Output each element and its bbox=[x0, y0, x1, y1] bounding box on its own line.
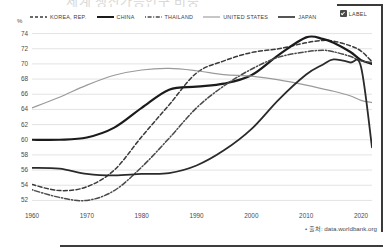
label-toggle[interactable]: LABEL bbox=[340, 10, 367, 17]
frame-right-edge bbox=[381, 4, 383, 232]
chart-legend: KOREA, REP. CHINA THAILAND UNITED STATES… bbox=[30, 10, 379, 24]
checkbox-checked-icon[interactable] bbox=[340, 10, 347, 17]
y-tick-label: 56 bbox=[14, 166, 28, 173]
legend-item-korea[interactable]: KOREA, REP. bbox=[30, 14, 87, 20]
y-tick-label: 62 bbox=[14, 121, 28, 128]
legend-label-united-states: UNITED STATES bbox=[223, 14, 268, 20]
x-tick-label: 2000 bbox=[237, 212, 265, 219]
series-line-japan bbox=[32, 59, 372, 175]
y-tick-label: 72 bbox=[14, 45, 28, 52]
x-tick-label: 1980 bbox=[128, 212, 156, 219]
legend-swatch-solid-medium-icon bbox=[278, 14, 295, 20]
legend-item-japan[interactable]: JAPAN bbox=[278, 14, 316, 20]
legend-item-thailand[interactable]: THAILAND bbox=[145, 14, 194, 20]
frame-top-edge bbox=[337, 4, 383, 6]
x-tick-label: 1990 bbox=[183, 212, 211, 219]
source-note: • 출처: data.worldbank.org bbox=[305, 224, 377, 233]
y-tick-label: 54 bbox=[14, 181, 28, 188]
x-tick-label: 1970 bbox=[73, 212, 101, 219]
y-tick-label: 58 bbox=[14, 151, 28, 158]
series-line-korea-rep bbox=[32, 40, 372, 190]
legend-swatch-dashed-icon bbox=[30, 14, 47, 20]
legend-label-thailand: THAILAND bbox=[165, 14, 194, 20]
frame-bottom-edge bbox=[60, 245, 383, 247]
plot-area bbox=[32, 26, 372, 208]
series-line-thailand bbox=[32, 50, 372, 200]
y-tick-label: 64 bbox=[14, 105, 28, 112]
legend-swatch-solid-thin-icon bbox=[203, 14, 220, 20]
plot-svg bbox=[32, 26, 372, 208]
legend-swatch-solid-thick-icon bbox=[97, 14, 114, 20]
x-tick-label: 2020 bbox=[347, 212, 375, 219]
legend-swatch-dash-dot-icon bbox=[145, 14, 162, 20]
y-tick-label: 60 bbox=[14, 136, 28, 143]
legend-label-china: CHINA bbox=[117, 14, 135, 20]
y-axis-unit: % bbox=[17, 18, 22, 24]
y-tick-label: 52 bbox=[14, 196, 28, 203]
x-tick-label: 1960 bbox=[18, 212, 46, 219]
label-toggle-text: LABEL bbox=[349, 11, 367, 17]
y-tick-label: 74 bbox=[14, 30, 28, 37]
y-tick-label: 70 bbox=[14, 60, 28, 67]
x-tick-label: 2010 bbox=[292, 212, 320, 219]
chart-page: 세계 생산가능인구 비중 KOREA, REP. CHINA THAILAND bbox=[0, 0, 389, 249]
clipped-title: 세계 생산가능인구 비중 bbox=[0, 0, 389, 7]
y-tick-label: 66 bbox=[14, 90, 28, 97]
legend-item-china[interactable]: CHINA bbox=[97, 14, 135, 20]
legend-label-japan: JAPAN bbox=[298, 14, 316, 20]
title-text: 세계 생산가능인구 비중 bbox=[66, 0, 199, 7]
legend-item-united-states[interactable]: UNITED STATES bbox=[203, 14, 268, 20]
y-tick-label: 68 bbox=[14, 75, 28, 82]
legend-label-korea: KOREA, REP. bbox=[50, 14, 87, 20]
